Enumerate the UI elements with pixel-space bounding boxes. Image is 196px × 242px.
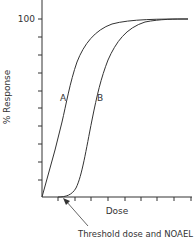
y-tick-label-100: 100 — [18, 14, 35, 24]
curve-b — [58, 19, 188, 197]
y-axis-label: % Response — [2, 69, 12, 124]
x-axis-label: Dose — [106, 206, 129, 216]
threshold-arrow — [63, 198, 88, 226]
threshold-annotation: Threshold dose and NOAEL — [77, 229, 193, 239]
x-ticks — [58, 197, 191, 201]
curve-a-label: A — [60, 93, 67, 103]
dose-response-chart: 100 % Response A B Dose Threshold dose a… — [0, 0, 196, 242]
curve-b-label: B — [97, 93, 103, 103]
y-ticks — [38, 19, 42, 180]
